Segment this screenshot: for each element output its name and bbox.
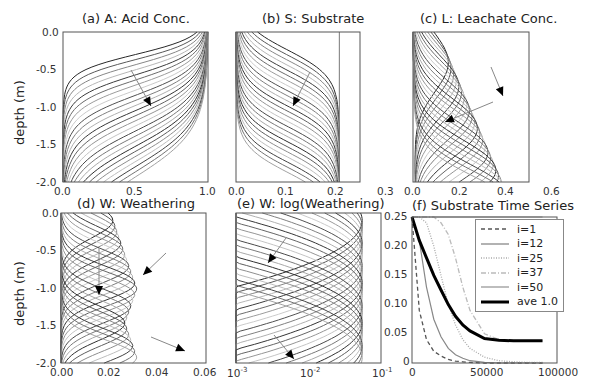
- legend-item: i=25: [481, 251, 558, 266]
- xtick: 0.0: [404, 185, 421, 197]
- ytick: 0.0: [42, 207, 59, 219]
- panel-e-plot: [236, 213, 382, 367]
- ytick: 0.0: [42, 26, 59, 38]
- panel-e-title: (e) W: log(Weathering): [237, 196, 385, 211]
- panel-f-title: (f) Substrate Time Series: [412, 198, 574, 213]
- y-axis-label-top: depth (m): [12, 80, 27, 145]
- legend-item: i=50: [481, 280, 558, 295]
- ytick: 0.15: [384, 268, 407, 280]
- ytick: -1.0: [36, 282, 57, 294]
- panel-c-title: (c) L: Leachate Conc.: [420, 11, 557, 26]
- ytick: 0.20: [384, 239, 407, 251]
- ytick: -1.5: [36, 319, 57, 331]
- xtick: 0: [409, 366, 416, 378]
- panel-d-title: (d) W: Weathering: [77, 196, 195, 211]
- legend-item: ave 1.0: [481, 295, 558, 310]
- xtick: 100000: [538, 366, 578, 378]
- ytick: -1.0: [36, 101, 57, 113]
- ytick: 0.05: [384, 326, 407, 338]
- ytick: 0.25: [384, 210, 407, 222]
- xtick: 0.6: [543, 185, 560, 197]
- xtick: 0.4: [497, 185, 514, 197]
- legend-item: i=12: [481, 237, 558, 252]
- panel-b-title: (b) S: Substrate: [262, 11, 364, 26]
- ytick: -0.5: [36, 244, 57, 256]
- panel-f-legend: i=1 i=12 i=25 i=37 i=50 ave 1.0: [475, 219, 564, 312]
- y-axis-label-bottom: depth (m): [12, 261, 27, 326]
- xtick: 0.06: [193, 366, 216, 378]
- panel-b-plot: [236, 32, 396, 186]
- xtick: 0.0: [54, 185, 71, 197]
- panel-a-plot: [63, 32, 209, 186]
- xtick: 10-3: [227, 366, 247, 379]
- xtick: 0.2: [451, 185, 468, 197]
- panel-c-plot: [413, 32, 553, 186]
- xtick: 50000: [470, 366, 503, 378]
- ytick: -0.5: [36, 63, 57, 75]
- legend-item: i=37: [481, 266, 558, 281]
- ytick: -1.5: [36, 138, 57, 150]
- xtick: 0.04: [145, 366, 168, 378]
- xtick: 10-1: [372, 366, 392, 379]
- panel-a-title: (a) A: Acid Conc.: [82, 11, 190, 26]
- ytick: 0.10: [384, 297, 407, 309]
- legend-item: i=1: [481, 222, 558, 237]
- panel-d-plot: [61, 213, 207, 367]
- xtick: 0.00: [50, 366, 73, 378]
- xtick: 1.0: [199, 185, 216, 197]
- xtick: 10-2: [300, 366, 320, 379]
- xtick: 0.02: [97, 366, 120, 378]
